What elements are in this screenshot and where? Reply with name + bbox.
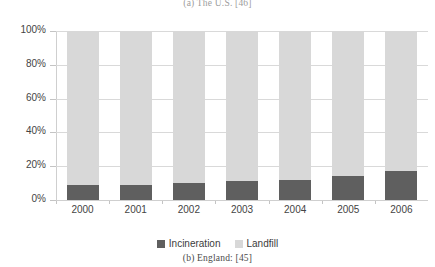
figure-caption-bottom: (b) England: [45] [0,253,435,263]
stacked-bar [173,31,205,200]
figure-panel: (a) The U.S. [46] 0%20%40%60%80%100% 200… [0,0,435,267]
bar-segment-landfill [120,31,152,185]
y-axis-tick-label: 80% [0,58,46,69]
y-axis-tick [50,99,56,100]
bar-segment-incineration [385,171,417,200]
bar-segment-landfill [385,31,417,171]
legend-swatch-icon [157,240,165,248]
legend-item: Landfill [235,238,279,249]
x-axis-line [56,200,428,201]
y-axis-tick [50,31,56,32]
y-axis-tick-label: 20% [0,159,46,170]
bar-segment-landfill [67,31,99,185]
y-axis-tick-label: 40% [0,125,46,136]
x-axis-tick-label: 2006 [371,204,431,215]
bar-segment-landfill [173,31,205,183]
legend-label: Incineration [169,238,221,249]
bar-segment-incineration [67,185,99,200]
y-axis-tick [50,132,56,133]
stacked-bar [120,31,152,200]
bar-segment-landfill [279,31,311,180]
bar-segment-incineration [226,181,258,200]
bar-segment-landfill [226,31,258,181]
x-axis-tick-label: 2005 [318,204,378,215]
x-axis-tick-label: 2001 [106,204,166,215]
bar-segment-incineration [279,180,311,200]
x-axis-tick-label: 2004 [265,204,325,215]
y-axis-tick [50,65,56,66]
x-axis-tick-label: 2000 [53,204,113,215]
legend-item: Incineration [157,238,221,249]
bar-segment-incineration [120,185,152,200]
stacked-bar [385,31,417,200]
bar-segment-incineration [332,176,364,200]
stacked-bar [67,31,99,200]
x-axis-tick-label: 2002 [159,204,219,215]
y-axis-tick-label: 60% [0,92,46,103]
stacked-bar [279,31,311,200]
figure-caption-top: (a) The U.S. [46] [0,0,435,8]
legend-label: Landfill [247,238,279,249]
stacked-bar [226,31,258,200]
bar-segment-incineration [173,183,205,200]
y-axis-tick-label: 100% [0,24,46,35]
y-axis-tick-label: 0% [0,193,46,204]
bar-segment-landfill [332,31,364,176]
y-axis-tick [50,166,56,167]
legend-swatch-icon [235,240,243,248]
stacked-bar [332,31,364,200]
chart-legend: IncinerationLandfill [0,238,435,249]
x-axis-tick-label: 2003 [212,204,272,215]
